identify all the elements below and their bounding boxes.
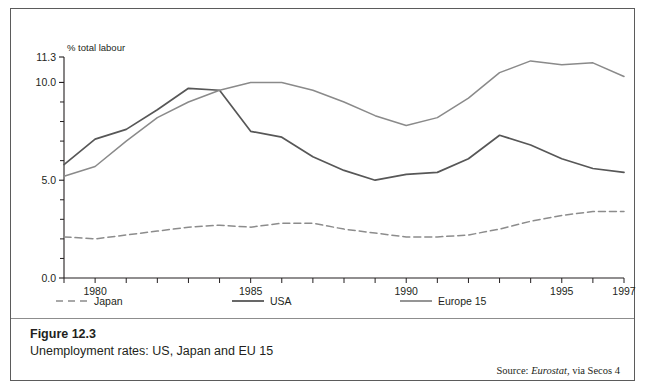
legend-item-japan[interactable]: Japan xyxy=(55,295,123,307)
source-prefix: Source: xyxy=(496,365,531,376)
series-line-europe-15 xyxy=(64,61,624,176)
figure-page: 0.05.010.011.319801985199019951997% tota… xyxy=(0,0,645,390)
figure-source: Source: Eurostat, via Secos 4 xyxy=(496,365,620,376)
legend-label: Europe 15 xyxy=(438,295,486,307)
y-tick-label: 5.0 xyxy=(41,174,56,186)
source-publication: Eurostat xyxy=(531,365,567,376)
figure-caption: Figure 12.3 Unemployment rates: US, Japa… xyxy=(11,319,634,381)
legend-label: USA xyxy=(270,295,292,307)
y-axis-title: % total labour xyxy=(67,42,125,53)
source-suffix: , via Secos 4 xyxy=(567,365,620,376)
chart-legend: JapanUSAEurope 15 xyxy=(11,295,636,315)
legend-item-usa[interactable]: USA xyxy=(231,295,292,307)
figure-title: Unemployment rates: US, Japan and EU 15 xyxy=(30,344,273,358)
figure-number: Figure 12.3 xyxy=(30,327,96,341)
legend-swatch-solid-line xyxy=(399,295,433,307)
legend-swatch-dashed-line xyxy=(55,295,89,307)
chart-plot-area: 0.05.010.011.319801985199019951997% tota… xyxy=(11,9,636,309)
series-line-japan xyxy=(64,212,624,239)
legend-label: Japan xyxy=(94,295,123,307)
y-tick-label: 0.0 xyxy=(41,272,56,284)
y-tick-label: 10.0 xyxy=(36,76,57,88)
legend-item-europe-15[interactable]: Europe 15 xyxy=(399,295,486,307)
legend-swatch-solid-line xyxy=(231,295,265,307)
y-tick-label: 11.3 xyxy=(36,51,56,63)
unemployment-line-chart: 0.05.010.011.319801985199019951997% tota… xyxy=(11,9,636,309)
figure-frame: 0.05.010.011.319801985199019951997% tota… xyxy=(10,8,635,381)
